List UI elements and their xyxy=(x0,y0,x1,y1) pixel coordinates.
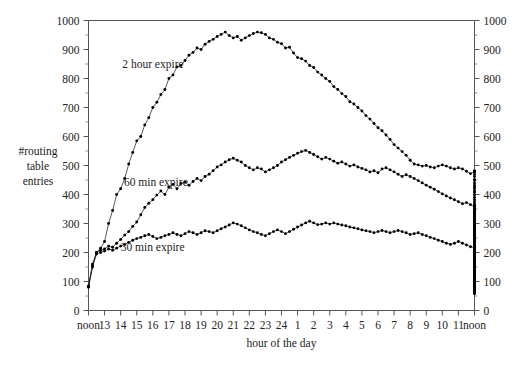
data-point xyxy=(461,242,464,245)
data-point xyxy=(449,197,452,200)
data-point xyxy=(340,224,343,227)
data-point xyxy=(208,230,211,233)
data-point xyxy=(469,203,472,206)
data-point xyxy=(155,101,158,104)
data-point xyxy=(147,116,150,119)
data-point xyxy=(373,122,376,125)
data-point xyxy=(360,228,363,231)
data-point xyxy=(292,52,295,55)
data-point xyxy=(369,118,372,121)
data-point xyxy=(465,244,468,247)
y-tick-label-left: 0 xyxy=(74,305,80,317)
data-point xyxy=(192,180,195,183)
data-point xyxy=(256,231,259,234)
data-point xyxy=(393,230,396,233)
data-point xyxy=(304,60,307,63)
data-point xyxy=(167,233,170,236)
data-point xyxy=(276,41,279,44)
data-point xyxy=(437,239,440,242)
data-point xyxy=(228,158,231,161)
data-point xyxy=(453,198,456,201)
x-axis-title: hour of the day xyxy=(247,337,317,350)
data-point xyxy=(95,253,98,256)
data-point xyxy=(457,240,460,243)
data-point xyxy=(204,43,207,46)
y-tick-label-right: 200 xyxy=(484,247,502,259)
data-point xyxy=(224,161,227,164)
data-point xyxy=(248,34,251,37)
data-point xyxy=(300,224,303,227)
data-point xyxy=(296,152,299,155)
data-point xyxy=(356,106,359,109)
data-point xyxy=(143,206,146,209)
data-point xyxy=(159,236,162,239)
y-axis-right-tick-labels: 01002003004005006007008009001000 xyxy=(484,15,507,317)
y-tick-label-left: 700 xyxy=(62,102,80,114)
data-point xyxy=(272,38,275,41)
data-point xyxy=(320,158,323,161)
data-point xyxy=(320,74,323,77)
data-point xyxy=(244,164,247,167)
data-point xyxy=(143,234,146,237)
data-point xyxy=(232,36,235,39)
data-point xyxy=(236,159,239,162)
data-point xyxy=(127,163,130,166)
data-point xyxy=(369,170,372,173)
x-tick-label: 20 xyxy=(211,319,223,331)
data-point xyxy=(381,168,384,171)
y-tick-label-left: 500 xyxy=(62,160,80,172)
data-point xyxy=(208,173,211,176)
data-point xyxy=(409,159,412,162)
data-point xyxy=(308,64,311,67)
data-point xyxy=(348,100,351,103)
x-tick-label: 15 xyxy=(131,319,143,331)
data-point xyxy=(139,213,142,216)
data-point xyxy=(312,153,315,156)
data-point xyxy=(204,229,207,232)
data-point xyxy=(188,184,191,187)
data-point xyxy=(389,231,392,234)
data-point xyxy=(212,169,215,172)
data-point xyxy=(167,77,170,80)
y-tick-label-right: 500 xyxy=(484,160,502,172)
data-point xyxy=(240,39,243,42)
data-point xyxy=(216,166,219,169)
data-point xyxy=(159,93,162,96)
data-point xyxy=(320,223,323,226)
data-point xyxy=(228,34,231,37)
x-tick-label: 24 xyxy=(276,319,288,331)
data-point xyxy=(429,186,432,189)
data-point xyxy=(236,223,239,226)
data-point xyxy=(91,266,94,269)
data-point xyxy=(473,175,476,178)
data-point xyxy=(437,165,440,168)
data-point xyxy=(284,232,287,235)
data-point xyxy=(208,40,211,43)
data-point xyxy=(123,234,126,237)
data-point xyxy=(292,228,295,231)
data-point xyxy=(328,80,331,83)
data-point xyxy=(131,151,134,154)
data-point xyxy=(216,35,219,38)
data-point xyxy=(332,221,335,224)
data-point xyxy=(276,164,279,167)
y-tick-label-right: 300 xyxy=(484,218,502,230)
x-tick-label: 23 xyxy=(260,319,272,331)
data-point xyxy=(425,234,428,237)
data-point xyxy=(445,195,448,198)
data-point xyxy=(348,226,351,229)
data-point xyxy=(224,226,227,229)
data-point xyxy=(143,123,146,126)
data-point xyxy=(248,166,251,169)
y-tick-label-right: 700 xyxy=(484,102,502,114)
y-axis-title-line-3: entries xyxy=(23,175,54,187)
data-point xyxy=(437,190,440,193)
data-point xyxy=(385,166,388,169)
x-tick-label: 13 xyxy=(99,319,111,331)
x-tick-label: 7 xyxy=(391,319,397,331)
data-point xyxy=(196,233,199,236)
data-point xyxy=(316,223,319,226)
data-point xyxy=(240,224,243,227)
x-tick-label: 6 xyxy=(375,319,381,331)
data-point xyxy=(300,150,303,153)
